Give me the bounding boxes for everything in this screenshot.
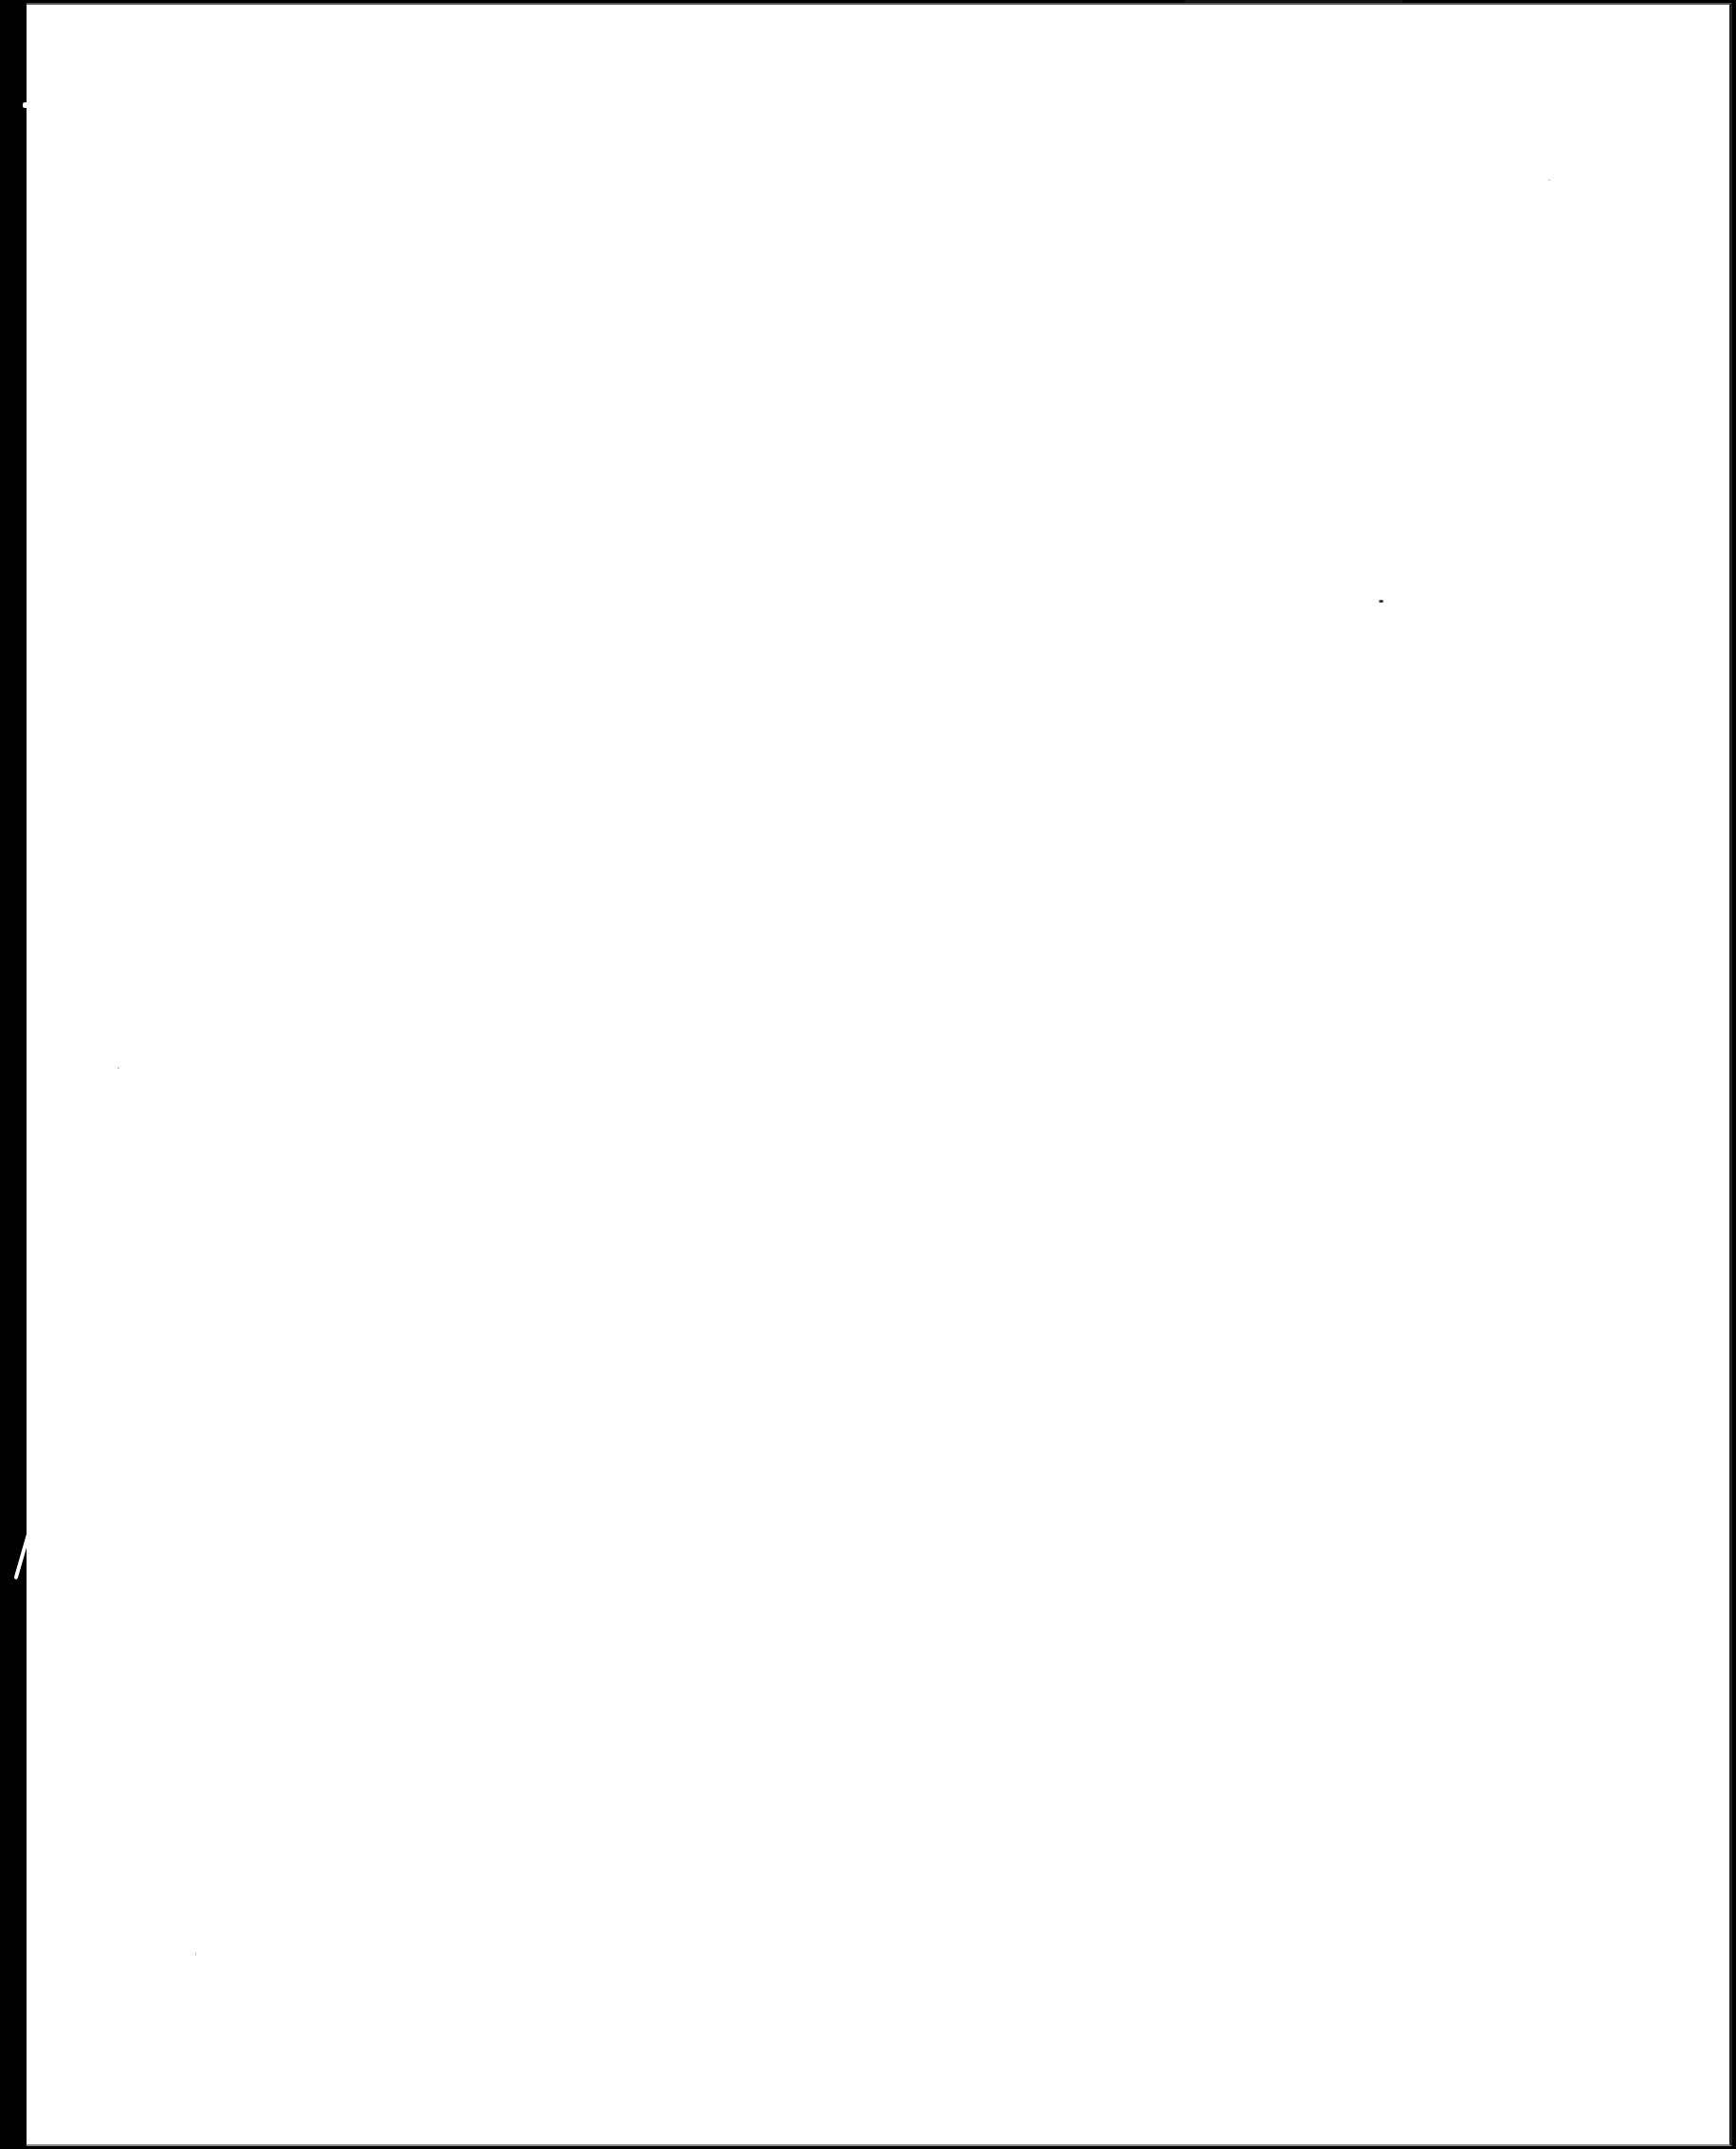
blank-document-page (27, 3, 1732, 2146)
dust-speck (1548, 179, 1550, 181)
dust-speck (118, 1067, 119, 1069)
dust-speck (1379, 600, 1383, 603)
scan-edge-streak (23, 102, 28, 108)
dust-speck (195, 1952, 196, 1956)
